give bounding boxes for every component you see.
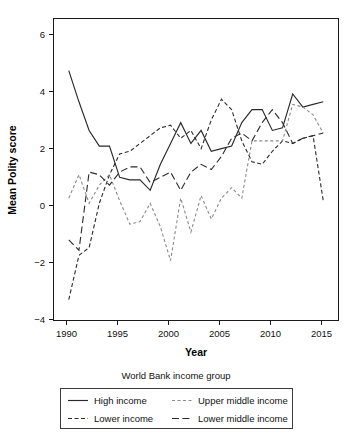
x-tick-label-2010: 2010 <box>260 328 281 339</box>
x-tick-label-2000: 2000 <box>158 328 179 339</box>
y-tick-label-4: 4 <box>40 86 45 97</box>
legend-entry-upper-middle-income[interactable]: Upper middle income <box>172 395 288 406</box>
legend-label-high-income: High income <box>94 395 147 406</box>
x-tick-label-1995: 1995 <box>107 328 128 339</box>
series-line-lower-income <box>69 99 323 299</box>
legend-entry-lower-income[interactable]: Lower income <box>68 413 153 424</box>
chart-svg: 6 4 2 0 −2 −4 1990 1995 2000 2005 2010 2… <box>0 0 353 442</box>
x-axis-title: Year <box>185 346 207 358</box>
x-axis-ticks <box>67 321 322 326</box>
polity-score-line-chart: 6 4 2 0 −2 −4 1990 1995 2000 2005 2010 2… <box>0 0 353 442</box>
y-tick-label-neg4: −4 <box>34 314 45 325</box>
series-group <box>69 71 323 300</box>
x-tick-label-2005: 2005 <box>209 328 230 339</box>
y-axis-ticks <box>49 35 54 320</box>
x-axis-tick-labels: 1990 1995 2000 2005 2010 2015 <box>56 328 332 339</box>
legend-label-lower-middle-income: Lower middle income <box>198 413 288 424</box>
legend-label-lower-income: Lower income <box>94 413 153 424</box>
legend-title: World Bank income group <box>121 370 230 381</box>
x-tick-label-2015: 2015 <box>311 328 332 339</box>
y-tick-label-0: 0 <box>40 200 45 211</box>
legend-entry-high-income[interactable]: High income <box>68 395 147 406</box>
y-tick-label-neg2: −2 <box>34 257 45 268</box>
legend-label-upper-middle-income: Upper middle income <box>198 395 288 406</box>
plot-frame <box>54 19 339 321</box>
x-tick-label-1990: 1990 <box>56 328 77 339</box>
y-tick-label-6: 6 <box>40 29 45 40</box>
y-tick-label-2: 2 <box>40 143 45 154</box>
y-axis-title: Mean Polity score <box>6 125 18 214</box>
y-axis-tick-labels: 6 4 2 0 −2 −4 <box>34 29 45 325</box>
legend-entry-lower-middle-income[interactable]: Lower middle income <box>172 413 288 424</box>
